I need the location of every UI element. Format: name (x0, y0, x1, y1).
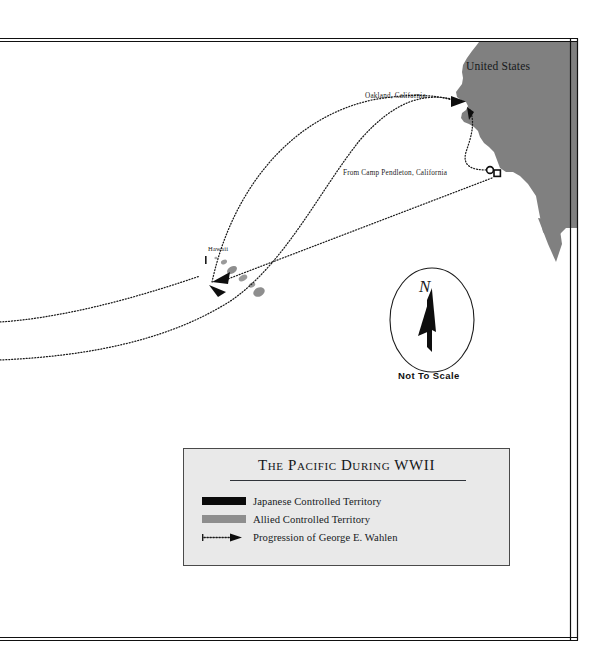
compass-north-letter: N (419, 277, 431, 297)
route-origin-tick (205, 256, 207, 264)
legend-item-progression: Progression of George E. Wahlen (202, 529, 398, 545)
legend-item-allied: Allied Controlled Territory (202, 511, 370, 527)
map-canvas (0, 0, 609, 672)
label-camp-pendleton: From Camp Pendleton, California (343, 169, 447, 177)
label-united-states: United States (466, 60, 530, 72)
map-page: N United States Oakland, California From… (0, 0, 609, 672)
legend-swatch-allied-icon (202, 515, 246, 523)
map-legend: The Pacific During WWII Japanese Control… (183, 448, 510, 566)
dotted-arrow-icon (202, 532, 246, 543)
label-oakland-california: Oakland, California (365, 92, 426, 100)
legend-item-japanese: Japanese Controlled Territory (202, 493, 381, 509)
legend-label-japanese: Japanese Controlled Territory (253, 496, 381, 507)
label-hawaii: Hawaii (208, 245, 228, 252)
label-not-to-scale: Not To Scale (398, 370, 460, 381)
legend-label-allied: Allied Controlled Territory (253, 514, 370, 525)
legend-title-underline (230, 480, 466, 481)
legend-swatch-japanese-icon (202, 497, 246, 505)
legend-title: The Pacific During WWII (184, 457, 509, 474)
legend-label-progression: Progression of George E. Wahlen (253, 532, 398, 543)
